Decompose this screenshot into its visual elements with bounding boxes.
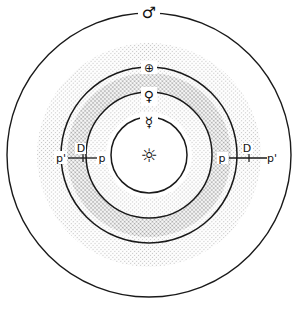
left-outer-label: p' [56,152,66,165]
left-inner-label: p [99,152,106,165]
right-inner-label: p [219,152,226,165]
mercury-symbol-icon: ☿ [145,114,154,130]
mars-symbol-icon: ♂ [142,3,156,22]
left-mid-label: D [77,142,85,155]
orbit-diagram-canvas: ♂ ⊕ ♀ ☿ ☼ p' D p p D p' [0,0,297,316]
right-outer-label: p' [267,152,277,165]
venus-symbol-icon: ♀ [144,88,154,104]
earth-symbol-icon: ⊕ [144,61,154,75]
orbit-diagram: ♂ ⊕ ♀ ☿ ☼ p' D p p D p' [0,0,297,316]
sun-symbol-icon: ☼ [140,144,157,166]
right-mid-label: D [243,142,251,155]
